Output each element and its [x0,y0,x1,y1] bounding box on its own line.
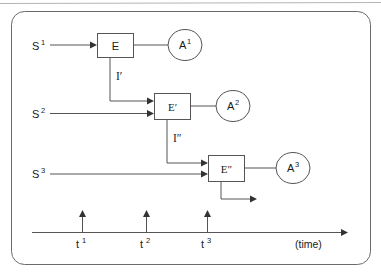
a3-base: A [287,162,295,174]
arrow-s1-to-e1 [50,42,97,49]
s2-base: S [32,108,39,120]
t1-superscript: 1 [82,236,86,245]
t2-superscript: 2 [146,236,150,245]
top-rule [0,3,381,4]
a2-base: A [227,100,235,112]
s1-base: S [32,40,39,52]
time-tick-t1: t 1 [76,210,86,250]
figure-root: S 1 E A 1 I′ S 2 E′ [0,0,381,276]
t3-base: t [201,238,204,250]
event-box-e2-label: E′ [168,101,177,113]
a3-superscript: 3 [295,160,299,169]
internal-link-i1-label: I′ [116,70,122,82]
s3-base: S [32,168,39,180]
diagram-canvas: S 1 E A 1 I′ S 2 E′ [0,0,381,276]
a1-superscript: 1 [187,37,191,46]
s1-superscript: 1 [41,38,45,47]
time-tick-t3: t 3 [201,210,211,250]
time-tick-t2: t 2 [140,210,150,250]
arrow-s2-to-e2 [50,110,154,117]
t2-base: t [140,238,143,250]
event-box-e3-label: E″ [221,163,232,175]
stimulus-s2-label: S 2 [32,106,45,120]
time-axis [32,229,348,236]
stimulus-s1-label: S 1 [32,38,45,52]
a2-superscript: 2 [235,98,239,107]
internal-link-i2-label: I″ [173,132,182,144]
t3-superscript: 3 [207,236,211,245]
output-arrow-e3 [221,182,257,203]
event-box-e1-label: E [112,40,119,52]
s3-superscript: 3 [41,166,45,175]
time-axis-label: (time) [295,238,322,250]
t1-base: t [76,238,79,250]
arrow-s3-to-e3 [50,171,208,178]
a1-base: A [179,39,187,51]
stimulus-s3-label: S 3 [32,166,45,180]
s2-superscript: 2 [41,106,45,115]
